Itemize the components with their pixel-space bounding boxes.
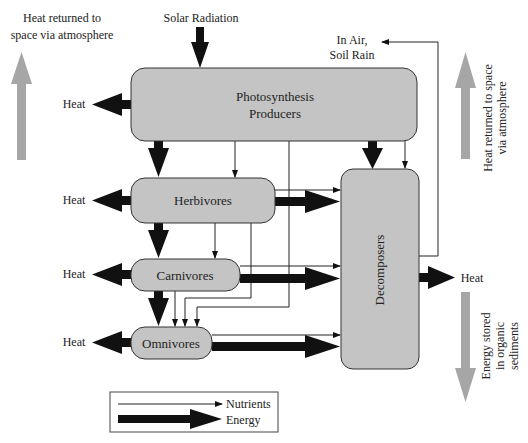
heat-to-space-right-label-1: Heat returned to space <box>481 64 495 172</box>
legend-nutrients-label: Nutrients <box>226 397 271 411</box>
decomposers-label: Decomposers <box>372 235 387 306</box>
heat-to-space-left-label-1: Heat returned to <box>23 11 101 25</box>
node-decomposers: Decomposers <box>341 169 419 369</box>
heat-to-space-right-arrow <box>455 52 476 159</box>
heat-label-producers: Heat <box>63 97 86 111</box>
heat-to-space-left-arrow <box>11 52 32 160</box>
node-herbivores: Herbivores <box>131 178 275 223</box>
energy-stored-label-3: sediments <box>507 322 521 370</box>
producers-label-1: Photosynthesis <box>236 89 314 104</box>
heat-label-omnivores: Heat <box>63 335 86 349</box>
legend: Nutrients Energy <box>110 392 278 432</box>
legend-energy-label: Energy <box>226 413 260 427</box>
omnivores-label: Omnivores <box>142 336 200 351</box>
heat-to-space-left-label-2: space via atmosphere <box>11 28 114 42</box>
heat-label-herbivores: Heat <box>63 193 86 207</box>
heat-to-space-right-label-2: via atmosphere <box>495 82 509 155</box>
in-air-label-2: Soil Rain <box>329 48 374 62</box>
herbivores-label: Herbivores <box>174 193 232 208</box>
node-omnivores: Omnivores <box>131 327 212 359</box>
carnivores-label: Carnivores <box>156 268 213 283</box>
energy-stored-label-1: Energy stored <box>479 313 493 380</box>
in-air-label-1: In Air, <box>337 33 368 47</box>
ecosystem-flow-diagram: Heat returned to space via atmosphere So… <box>0 0 528 443</box>
energy-stored-arrow <box>455 292 476 402</box>
energy-stored-label-2: in organic <box>493 322 507 370</box>
solar-energy-arrow <box>191 27 209 68</box>
solar-radiation-label: Solar Radiation <box>164 11 239 25</box>
heat-label-carnivores: Heat <box>63 267 86 281</box>
node-carnivores: Carnivores <box>131 259 240 291</box>
producers-label-2: Producers <box>249 106 301 121</box>
node-producers: Photosynthesis Producers <box>131 68 417 141</box>
heat-label-decomposers: Heat <box>461 271 484 285</box>
